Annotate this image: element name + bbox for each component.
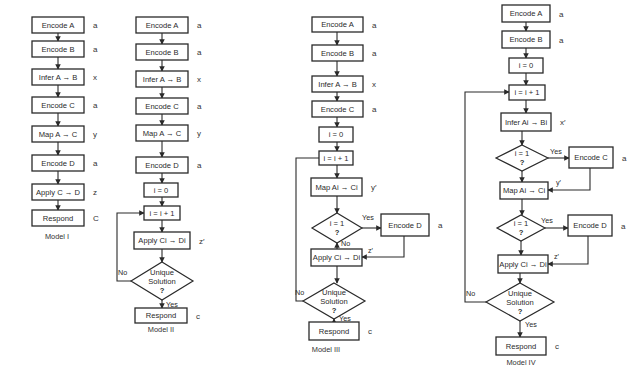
model-caption: Model I xyxy=(45,232,69,241)
decision-i-eq-1-first: i = 1? xyxy=(496,145,548,171)
box-label: Respond xyxy=(43,214,73,223)
process-box-apply-ci-di: Apply Ci → Diz′ xyxy=(134,232,205,249)
box-label: Encode A xyxy=(510,9,543,18)
step-parameter-tag: a xyxy=(372,49,377,58)
step-parameter-tag: a xyxy=(559,36,564,45)
decision-label: i = 1 xyxy=(514,219,529,228)
process-box-respond: RespondC xyxy=(32,210,99,226)
decision-label: ? xyxy=(160,286,165,295)
box-label: i = 0 xyxy=(519,61,534,70)
decision-label: Solution xyxy=(148,277,175,286)
model-2: Encode AaEncode BaInfer A → BxEncode CaM… xyxy=(117,17,205,334)
box-label: Apply C → D xyxy=(36,188,80,197)
model-4: Encode AaEncode Bai = 0i = i + 1Infer Ai… xyxy=(465,5,627,367)
decision-label: ? xyxy=(332,306,337,315)
box-label: Encode D xyxy=(145,161,179,170)
box-label: Apply Ci → Di xyxy=(138,236,186,245)
step-parameter-tag: y′ xyxy=(371,183,377,192)
decision-unique-solution: UniqueSolution? xyxy=(486,283,554,321)
decision-label: Unique xyxy=(150,268,174,277)
box-label: Infer A → B xyxy=(39,73,77,82)
step-parameter-tag: a xyxy=(622,154,627,163)
step-parameter-tag: y xyxy=(197,129,201,138)
process-box-encode-d: Encode Da xyxy=(381,214,443,236)
box-label: Encode B xyxy=(42,45,75,54)
box-label: Infer A → B xyxy=(143,75,181,84)
decision-label: i = 1 xyxy=(330,219,345,228)
box-label: Encode C xyxy=(145,102,179,111)
process-box-respond: Respondc xyxy=(309,322,372,340)
model-caption: Model IV xyxy=(506,358,535,367)
box-label: i = i + 1 xyxy=(150,209,175,218)
decision-label: ? xyxy=(518,307,523,316)
process-box-encode-c: Encode Ca xyxy=(32,97,98,113)
process-box-encode-a: Encode Aa xyxy=(312,17,377,32)
process-box-respond: Respondc xyxy=(135,308,200,323)
box-label: Respond xyxy=(319,327,349,336)
branch-label: Yes xyxy=(550,147,562,156)
box-label: Infer Ai → Bi xyxy=(505,118,548,127)
decision-label: ? xyxy=(520,158,525,167)
box-label: Encode B xyxy=(510,35,543,44)
step-parameter-tag: a xyxy=(93,21,98,30)
branch-label: z′ xyxy=(554,252,560,261)
box-label: Encode A xyxy=(146,21,179,30)
box-label: Respond xyxy=(506,342,536,351)
box-label: Map A → C xyxy=(39,130,78,139)
box-label: i = i + 1 xyxy=(515,88,540,97)
box-label: Map A → C xyxy=(143,129,182,138)
decision-unique-solution: UniqueSolution? xyxy=(303,283,365,319)
step-parameter-tag: x xyxy=(372,80,376,89)
box-label: Encode C xyxy=(574,153,608,162)
decision-i-eq-1: i = 1? xyxy=(312,213,362,243)
process-box-apply-ci-di: Apply Ci → Di xyxy=(311,249,362,266)
branch-label: Yes xyxy=(166,300,178,309)
box-label: i = i + 1 xyxy=(324,154,349,163)
decision-label: ? xyxy=(335,228,340,237)
connector-arrow xyxy=(548,168,590,190)
box-label: Encode C xyxy=(321,105,355,114)
step-parameter-tag: x xyxy=(93,73,97,82)
branch-label: z′ xyxy=(368,246,374,255)
process-box-encode-a: Encode Aa xyxy=(136,17,202,33)
process-box-encode-d: Encode Da xyxy=(32,155,98,171)
process-box-i-eq-i-plus-1: i = i + 1 xyxy=(509,85,545,100)
process-box-encode-b: Encode Ba xyxy=(312,45,377,61)
box-label: Apply Ci → Di xyxy=(499,260,547,269)
box-label: Apply Ci → Di xyxy=(313,253,361,262)
step-parameter-tag: a xyxy=(372,21,377,30)
models-root: Encode AaEncode BaInfer A → BxEncode CaM… xyxy=(32,5,627,367)
step-parameter-tag: x′ xyxy=(560,118,566,127)
box-label: i = 0 xyxy=(154,186,169,195)
box-label: Encode D xyxy=(388,221,422,230)
process-box-encode-c: Encode Ca xyxy=(569,147,627,168)
process-box-map-a-c: Map A → Cy xyxy=(32,126,97,142)
process-box-apply-ci-di: Apply Ci → Di xyxy=(498,255,548,273)
step-parameter-tag: c xyxy=(196,312,200,321)
step-parameter-tag: c xyxy=(555,342,559,351)
box-label: Encode A xyxy=(42,21,75,30)
box-label: Encode B xyxy=(321,49,354,58)
step-parameter-tag: a xyxy=(197,102,202,111)
decision-label: ? xyxy=(519,228,524,237)
box-label: Map Ai → Ci xyxy=(503,186,546,195)
process-box-infer-a-b: Infer A → Bx xyxy=(32,69,97,85)
process-box-encode-d: Encode Da xyxy=(568,215,626,236)
branch-label: Yes xyxy=(541,216,553,225)
decision-label: Unique xyxy=(322,288,346,297)
step-parameter-tag: C xyxy=(93,214,99,223)
branch-label: No xyxy=(295,288,304,297)
branch-label: No xyxy=(466,289,475,298)
decision-unique-solution: UniqueSolution? xyxy=(131,262,193,300)
step-parameter-tag: a xyxy=(93,45,98,54)
process-box-encode-c: Encode Ca xyxy=(136,98,202,114)
step-parameter-tag: a xyxy=(197,48,202,57)
decision-label: Solution xyxy=(320,297,347,306)
process-box-i-eq-i-plus-1: i = i + 1 xyxy=(319,151,353,165)
process-box-infer-a-b: Infer A → Bx xyxy=(136,71,201,87)
step-parameter-tag: a xyxy=(197,21,202,30)
model-caption: Model II xyxy=(148,325,174,334)
step-parameter-tag: c xyxy=(368,327,372,336)
box-label: Map Ai → Ci xyxy=(315,183,358,192)
process-box-i-eq-0: i = 0 xyxy=(509,58,543,73)
